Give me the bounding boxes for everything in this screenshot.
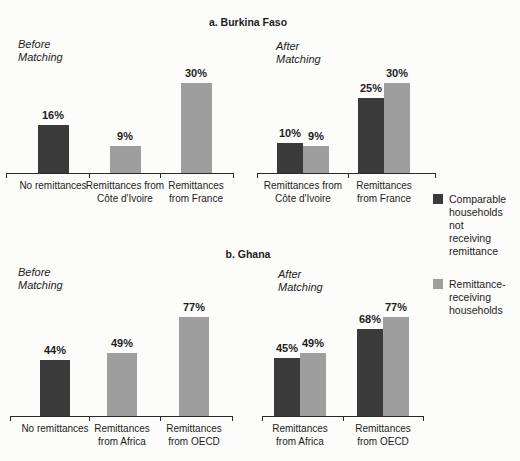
legend-label-remittance: Remittance- receiving households [449, 278, 506, 317]
bar-remittance [110, 146, 141, 173]
x-axis-tick [343, 416, 344, 421]
section-b-title: b. Ghana [8, 248, 488, 260]
bar-remittance [179, 317, 209, 416]
bar-value-label: 49% [100, 337, 144, 349]
x-axis-tick [89, 173, 90, 178]
legend-swatch-remittance-icon [433, 279, 443, 289]
x-axis-tick [348, 173, 349, 178]
bar-comparable [40, 360, 70, 416]
category-label: Remittances from OECD [146, 423, 242, 448]
bar-remittance [303, 146, 329, 173]
x-axis-tick [257, 173, 258, 178]
bar-remittance [383, 317, 409, 416]
x-axis-tick [160, 173, 161, 178]
remittances-matching-figure: a. Burkina Faso b. Ghana Comparable hous… [0, 0, 520, 461]
bar-value-label: 77% [172, 301, 216, 313]
bar-comparable [274, 358, 300, 416]
panel-condition-label: Before Matching [18, 266, 63, 292]
bar-value-label: 49% [291, 337, 335, 349]
panel-condition-label: After Matching [278, 268, 323, 294]
bar-remittance [384, 83, 410, 173]
x-axis-tick [160, 416, 161, 421]
bar-comparable [38, 125, 69, 173]
bar-value-label: 9% [103, 130, 147, 142]
bar-remittance [181, 83, 212, 173]
x-axis-line [6, 173, 233, 174]
bar-comparable [277, 143, 303, 173]
panel-condition-label: After Matching [276, 40, 321, 66]
category-label: Remittances from France [336, 180, 432, 205]
legend-swatch-comparable-icon [433, 194, 443, 204]
bar-value-label: 9% [294, 130, 338, 142]
legend: Comparable households not receiving remi… [433, 193, 517, 317]
bar-remittance [107, 353, 137, 416]
x-axis-line [257, 173, 435, 174]
x-axis-tick [89, 416, 90, 421]
category-label: Remittances from Africa [252, 423, 348, 448]
bar-remittance [300, 353, 326, 416]
category-label: Remittances from OECD [335, 423, 431, 448]
bar-value-label: 30% [375, 67, 419, 79]
legend-item-comparable: Comparable households not receiving remi… [433, 193, 517, 258]
bar-value-label: 30% [174, 67, 218, 79]
bar-value-label: 16% [31, 109, 75, 121]
legend-label-comparable: Comparable households not receiving remi… [449, 193, 517, 258]
category-label: Remittances from France [148, 180, 244, 205]
x-axis-tick [435, 173, 436, 178]
bar-comparable [358, 98, 384, 173]
x-axis-tick [262, 416, 263, 421]
section-a-title: a. Burkina Faso [8, 16, 488, 28]
legend-item-remittance: Remittance- receiving households [433, 278, 517, 317]
x-axis-tick [423, 416, 424, 421]
x-axis-tick [6, 173, 7, 178]
bar-value-label: 77% [374, 301, 418, 313]
bar-value-label: 44% [33, 344, 77, 356]
x-axis-tick [232, 416, 233, 421]
panel-condition-label: Before Matching [18, 38, 63, 64]
x-axis-line [10, 416, 232, 417]
x-axis-tick [10, 416, 11, 421]
bar-comparable [357, 329, 383, 416]
x-axis-tick [233, 173, 234, 178]
